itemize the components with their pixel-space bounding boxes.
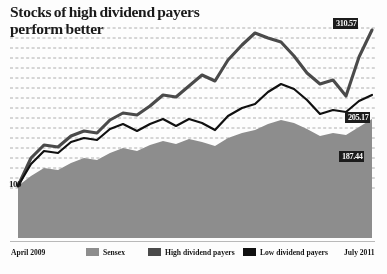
legend-label-high-dividend: High dividend payers [165,248,235,257]
end-value-sensex: 187.44 [339,151,364,162]
baseline-value-label: 100 [9,179,21,189]
chart-title: Stocks of high dividend payers perform b… [10,3,225,37]
end-value-low-dividend: 205.17 [345,112,370,123]
chart-figure: Stocks of high dividend payers perform b… [0,0,387,274]
axis-rule [10,241,375,242]
legend-swatch-sensex [86,248,99,256]
axis-start-label: April 2009 [11,248,45,257]
end-value-high-dividend: 310.57 [333,18,358,29]
legend-label-low-dividend: Low dividend payers [260,248,328,257]
chart-plot-area [0,0,387,274]
legend-swatch-high-dividend [148,248,161,256]
legend-label-sensex: Sensex [103,248,125,257]
axis-end-label: July 2011 [344,248,375,257]
legend-swatch-low-dividend [243,248,256,256]
chart-legend: April 2009 Sensex High dividend payers L… [0,246,387,260]
